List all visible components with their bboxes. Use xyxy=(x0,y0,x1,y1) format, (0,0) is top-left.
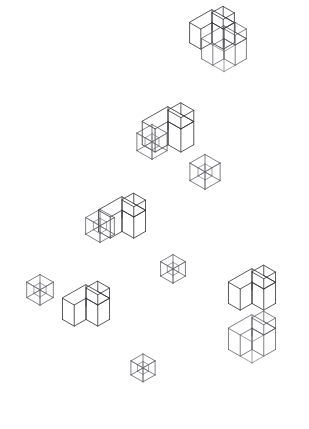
inner-cube-edge xyxy=(173,272,179,275)
inner-cube-edge xyxy=(40,286,46,290)
inner-cube-edge xyxy=(137,361,143,364)
solid-z-block xyxy=(228,265,275,310)
solid-z-block xyxy=(62,281,109,326)
inner-cube-edge xyxy=(167,266,173,269)
drawing-canvas xyxy=(0,0,309,429)
cube-diagonal xyxy=(131,361,138,365)
block-bottom-edge xyxy=(190,43,235,49)
inner-cube-edge xyxy=(143,368,149,371)
group-upper-middle xyxy=(137,103,220,189)
inner-cube-edge xyxy=(93,218,100,222)
inner-cube-edge xyxy=(143,365,149,368)
cube-edge xyxy=(131,375,143,382)
wire-cube xyxy=(190,154,220,189)
cube-diagonal xyxy=(46,282,53,286)
solid-z-block xyxy=(142,103,194,152)
inner-cube-edge xyxy=(93,226,100,230)
cube-edge xyxy=(161,255,173,262)
block-hidden-edge xyxy=(224,45,235,51)
block-bottom-edge xyxy=(98,231,145,238)
block-hidden-edge xyxy=(240,356,252,363)
inner-cube-edge xyxy=(173,266,179,269)
inner-cube-edge xyxy=(145,142,152,146)
cube-edge xyxy=(173,276,185,283)
cube-edge xyxy=(137,124,152,133)
cube-diagonal xyxy=(179,262,186,266)
block-hidden-edge xyxy=(240,335,252,342)
cube-diagonal xyxy=(86,218,94,223)
inner-cube-edge xyxy=(198,168,205,172)
inner-cube-edge xyxy=(167,272,173,275)
inner-cube-edge xyxy=(100,226,107,230)
cube-edge xyxy=(100,209,114,217)
inner-cube-edge xyxy=(34,283,40,287)
group-bottom-center xyxy=(131,354,155,382)
inner-cube-edge xyxy=(40,293,46,297)
cube-edge xyxy=(40,275,53,283)
inner-cube-edge xyxy=(198,172,205,176)
group-top-right xyxy=(190,7,247,72)
group-left xyxy=(27,275,54,306)
inner-cube-edge xyxy=(143,371,149,374)
inner-cube-edge xyxy=(198,164,205,168)
cube-edge xyxy=(143,354,155,361)
block-hidden-edge xyxy=(224,65,235,71)
cube-edge xyxy=(86,234,100,242)
inner-cube-edge xyxy=(145,146,152,150)
cube-edge xyxy=(143,375,155,382)
inner-cube-edge xyxy=(40,290,46,293)
cube-diagonal xyxy=(137,133,145,138)
inner-cube-edge xyxy=(137,371,143,374)
inner-cube-edge xyxy=(145,134,152,138)
block-hidden-edge xyxy=(252,335,264,342)
cube-edge xyxy=(137,151,152,160)
inner-cube-edge xyxy=(198,176,205,180)
cube-diagonal xyxy=(149,361,156,365)
group-bottom-left xyxy=(62,281,109,326)
inner-cube-edge xyxy=(145,138,152,142)
inner-cube-edge xyxy=(34,293,40,297)
inner-cube-edge xyxy=(205,172,212,176)
inner-cube-edge xyxy=(40,283,46,287)
wire-z-block xyxy=(228,311,275,363)
block-hidden-edge xyxy=(213,65,224,71)
wire-cube xyxy=(131,354,155,382)
inner-cube-edge xyxy=(205,176,212,180)
inner-cube-edge xyxy=(93,222,100,226)
inner-cube-edge xyxy=(167,269,173,272)
solid-z-block xyxy=(98,193,145,238)
isometric-figure-plate xyxy=(0,0,309,429)
cube-edge xyxy=(190,154,205,163)
inner-cube-edge xyxy=(137,368,143,371)
inner-cube-edge xyxy=(100,218,107,222)
wire-cube xyxy=(161,255,186,284)
inner-cube-edge xyxy=(34,286,40,290)
cube-edge xyxy=(86,209,100,217)
block-bottom-edge xyxy=(228,303,275,310)
cube-edge xyxy=(190,181,205,190)
cube-diagonal xyxy=(161,262,168,266)
cube-diagonal xyxy=(190,163,198,168)
inner-cube-edge xyxy=(205,168,212,172)
cube-edge xyxy=(40,298,53,306)
cube-edge xyxy=(27,275,40,283)
inner-cube-edge xyxy=(100,230,107,234)
wire-cube xyxy=(137,124,167,159)
group-center xyxy=(86,193,186,283)
inner-cube-edge xyxy=(167,262,173,265)
inner-cube-edge xyxy=(205,164,212,168)
inner-cube-edge xyxy=(34,290,40,293)
cube-diagonal xyxy=(212,163,220,168)
inner-cube-edge xyxy=(137,365,143,368)
block-hidden-edge xyxy=(252,356,264,363)
cube-edge xyxy=(100,234,114,242)
wire-cube xyxy=(27,275,54,306)
cube-edge xyxy=(173,255,185,262)
block-bottom-edge xyxy=(62,319,109,326)
cube-edge xyxy=(161,276,173,283)
cube-edge xyxy=(131,354,143,361)
wire-z-block xyxy=(202,23,247,72)
cube-edge xyxy=(205,181,220,190)
inner-cube-edge xyxy=(143,361,149,364)
inner-cube-edge xyxy=(173,262,179,265)
